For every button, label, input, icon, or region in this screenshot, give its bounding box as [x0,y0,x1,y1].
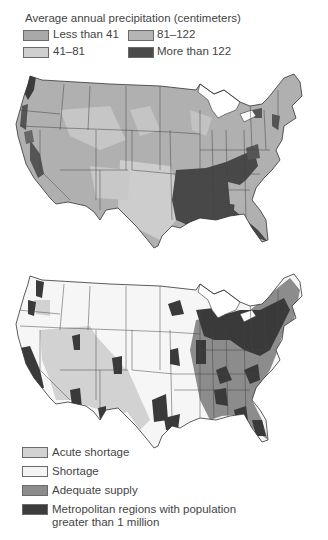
legend-swatch-acute-shortage [22,447,48,458]
legend-swatch-more-than-122 [128,47,154,58]
legend-swatch-81-122 [128,30,154,41]
legend-label-metropolitan-line2: greater than 1 million [52,516,159,529]
legend-label-more-than-122: More than 122 [157,45,231,58]
legend-swatch-41-81 [23,47,49,58]
legend-swatch-less-than-41 [23,30,49,41]
legend-swatch-adequate-supply [22,485,48,496]
legend-label-less-than-41: Less than 41 [53,28,119,41]
legend-label-metropolitan-line1: Metropolitan regions with population [52,503,236,516]
legend-swatch-shortage [22,466,48,477]
legend-label-shortage: Shortage [52,465,99,478]
legend-label-41-81: 41–81 [53,45,85,58]
water-supply-map [0,270,328,450]
legend-label-81-122: 81–122 [157,28,195,41]
legend-label-adequate-supply: Adequate supply [52,484,138,497]
legend-swatch-metropolitan [22,504,48,515]
precipitation-legend-title: Average annual precipitation (centimeter… [25,12,241,24]
legend-label-acute-shortage: Acute shortage [52,446,129,459]
precipitation-map [0,70,328,250]
